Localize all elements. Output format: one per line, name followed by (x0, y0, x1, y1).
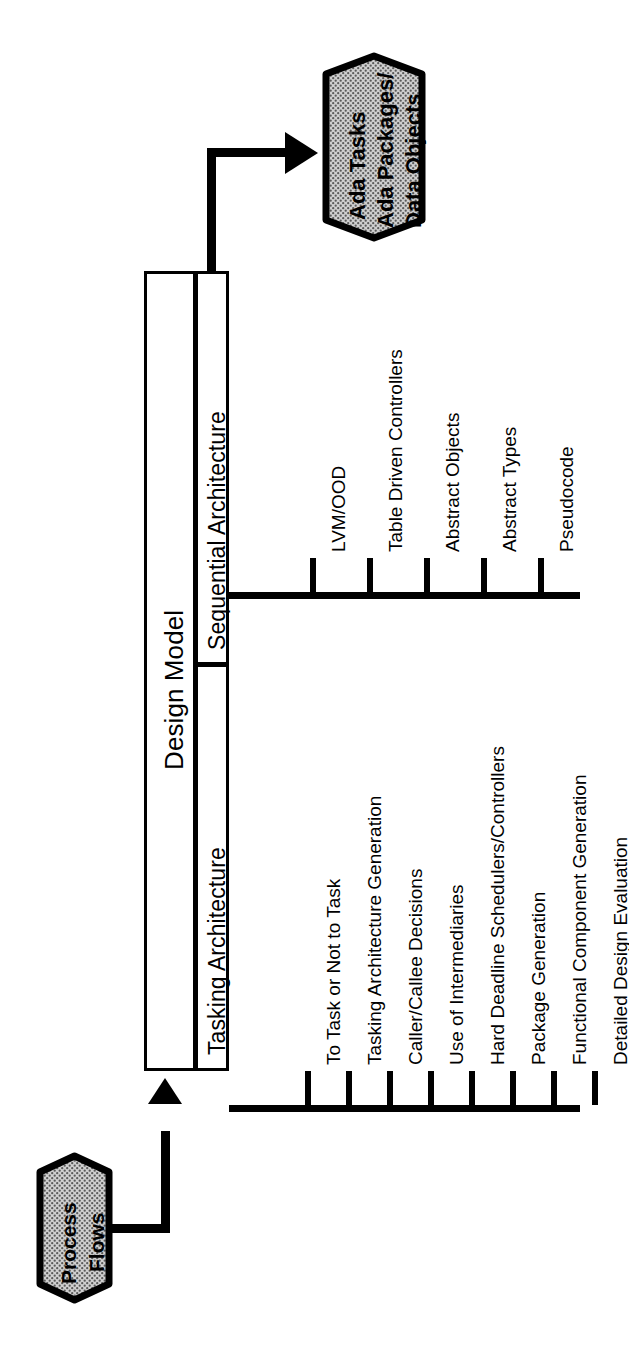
output-cylinder-ada-products: Ada Tasks Ada Packages/ Data Objects (322, 52, 426, 242)
leaf-label: Functional Component Generation (570, 775, 589, 1065)
sequential-architecture-label: Sequential Architecture (206, 411, 229, 650)
leaf-tick (481, 558, 487, 592)
leaf-label: Hard Deadline Schedulers/Controllers (488, 746, 507, 1065)
leaf-label: Use of Intermediaries (447, 884, 466, 1065)
leaf-tick (510, 1071, 516, 1105)
diagram-canvas: Ada Tasks Ada Packages/ Data Objects Des… (0, 0, 629, 1368)
leaf-label: Pseudocode (557, 446, 576, 552)
leaf-tick (310, 558, 316, 592)
leaf-label: Table Driven Controllers (386, 349, 405, 552)
sequential-branch-spine (229, 592, 580, 599)
leaf-label: Package Generation (529, 892, 548, 1065)
tasking-architecture-label: Tasking Architecture (206, 847, 229, 1055)
input-cylinder-process-flows: Process Flows (36, 1152, 113, 1304)
leaf-tick (538, 558, 544, 592)
leaf-tick (305, 1071, 311, 1105)
leaf-label: LVM/OOD (329, 466, 348, 552)
leaf-label: To Task or Not to Task (324, 879, 343, 1065)
leaf-label: Caller/Callee Decisions (406, 869, 425, 1065)
input-arrowhead-icon (148, 1078, 182, 1104)
leaf-label: Abstract Objects (443, 413, 462, 552)
leaf-label: Tasking Architecture Generation (365, 796, 384, 1065)
design-model-label: Design Model (161, 610, 187, 770)
output-arrowhead-icon (285, 132, 318, 174)
leaf-tick (428, 1071, 434, 1105)
tasking-branch-spine (229, 1105, 580, 1112)
leaf-tick (346, 1071, 352, 1105)
leaf-tick (469, 1071, 475, 1105)
output-connector-run (207, 148, 297, 157)
leaf-label: Abstract Types (500, 427, 519, 552)
leaf-tick (387, 1071, 393, 1105)
leaf-tick (424, 558, 430, 592)
output-connector-riser (207, 148, 216, 273)
leaf-tick (592, 1071, 598, 1105)
leaf-label: Detailed Design Evaluation (611, 837, 629, 1065)
leaf-tick (551, 1071, 557, 1105)
leaf-tick (367, 558, 373, 592)
input-connector-riser (161, 1131, 170, 1233)
